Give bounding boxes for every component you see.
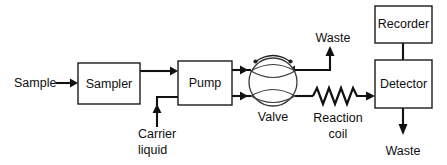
recorder-label: Recorder <box>378 17 429 31</box>
flow-sample-to-sampler <box>56 79 78 88</box>
valve-label: Valve <box>258 110 288 124</box>
arrow-head-carrier <box>153 104 162 113</box>
flow-injection-diagram: Sampler Pump Recorder Detector Sample Ca… <box>0 0 447 165</box>
reaction-coil-shape <box>313 88 375 104</box>
reaction-coil-label-line1: Reaction <box>313 111 362 125</box>
arrow-head-pump-upper <box>240 66 248 75</box>
diagram-canvas: Sampler Pump Recorder Detector Sample Ca… <box>0 0 447 165</box>
arrow-head-sample <box>70 79 78 88</box>
sampler-label: Sampler <box>86 77 133 91</box>
carrier-liquid-label-line2: liquid <box>138 143 167 157</box>
box-sampler[interactable]: Sampler <box>78 63 140 104</box>
flow-pump-upper-to-valve <box>232 66 251 75</box>
box-pump[interactable]: Pump <box>178 61 232 105</box>
flow-carrier-to-pump <box>153 97 179 127</box>
box-detector[interactable]: Detector <box>375 60 432 108</box>
pump-label: Pump <box>189 76 222 90</box>
sample-label: Sample <box>14 76 56 90</box>
arrow-head-waste-bottom <box>399 124 408 135</box>
waste-top-label: Waste <box>316 31 351 45</box>
flow-pump-lower-to-valve <box>232 92 251 101</box>
arrow-head-coil-to-detector <box>366 92 375 101</box>
box-recorder[interactable]: Recorder <box>375 6 432 43</box>
valve-component[interactable] <box>249 56 297 107</box>
arrow-head-waste-top <box>326 46 335 56</box>
arrow-head-sampler-out <box>170 67 178 76</box>
detector-label: Detector <box>380 77 427 91</box>
flow-detector-to-waste <box>399 108 408 135</box>
waste-bottom-label: Waste <box>386 144 421 158</box>
flow-sampler-to-pump <box>140 67 178 76</box>
carrier-liquid-label-line1: Carrier <box>138 127 176 141</box>
valve-rotation-tip-left <box>253 59 257 63</box>
arrow-head-pump-lower <box>240 92 248 101</box>
reaction-coil-label-line2: coil <box>329 127 348 141</box>
valve-rotation-tip-right <box>288 59 292 63</box>
